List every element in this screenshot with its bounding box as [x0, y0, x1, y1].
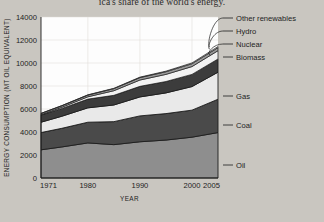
y-axis-tick-labels: 02000400060008000100001200014000	[16, 13, 37, 183]
x-tick-label: 1980	[79, 181, 96, 190]
y-tick-label: 12000	[16, 36, 37, 45]
y-tick-label: 6000	[20, 105, 37, 114]
y-axis-title: ENERGY CONSUMPTION (MT OIL EQUIVALENT)	[3, 18, 11, 177]
x-axis-tick-labels: 19711980199020002005	[40, 181, 220, 190]
legend-label-biomass: Biomass	[236, 53, 265, 62]
legend-label-other-renewables: Other renewables	[236, 14, 296, 23]
y-tick-label: 4000	[20, 128, 37, 137]
legend-label-gas: Gas	[236, 92, 250, 101]
x-tick-label: 2005	[203, 181, 220, 190]
legend-label-hydro: Hydro	[236, 27, 256, 36]
legend-label-coal: Coal	[236, 121, 252, 130]
x-tick-label: 2000	[184, 181, 201, 190]
y-tick-label: 10000	[16, 59, 37, 68]
y-tick-label: 14000	[16, 13, 37, 22]
energy-consumption-area-chart: 02000400060008000100001200014000 1971198…	[0, 0, 324, 222]
x-tick-label: 1971	[40, 181, 57, 190]
x-axis-title: YEAR	[120, 195, 139, 202]
legend: Other renewablesHydroNuclearBiomassGasCo…	[209, 14, 296, 170]
legend-label-oil: Oil	[236, 161, 246, 170]
x-tick-label: 1990	[131, 181, 148, 190]
y-tick-label: 8000	[20, 82, 37, 91]
y-tick-label: 2000	[20, 151, 37, 160]
legend-label-nuclear: Nuclear	[236, 40, 263, 49]
y-tick-label: 0	[33, 174, 37, 183]
